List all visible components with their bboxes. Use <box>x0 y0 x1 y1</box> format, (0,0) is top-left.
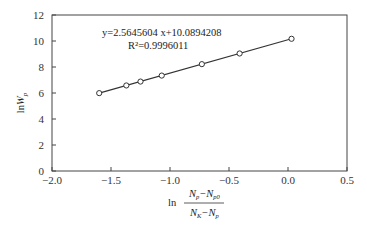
svg-text:ln: ln <box>168 197 177 208</box>
y-tick-label: 4 <box>39 113 45 125</box>
y-tick-label: 12 <box>33 9 44 21</box>
data-point-marker <box>138 79 143 84</box>
r-squared: R²=0.9996011 <box>128 40 188 51</box>
svg-text:NK−Np: NK−Np <box>189 207 219 219</box>
fit-equation: y=2.5645604 x+10.0894208 <box>102 27 221 38</box>
y-tick-label: 6 <box>39 87 45 99</box>
y-tick-label: 0 <box>39 165 45 177</box>
y-tick-label: 8 <box>39 61 45 73</box>
chart: −2.0−1.5−1.0−0.50.00.5024681012 y=2.5645… <box>0 0 367 230</box>
x-tick-label: 0.0 <box>281 174 295 186</box>
x-axis-label: ln Np−Np0 NK−Np <box>168 188 224 219</box>
y-axis-label: lnWp <box>15 92 29 113</box>
data-point-marker <box>159 73 164 78</box>
x-tick-label: −2.0 <box>42 174 62 186</box>
data-point-marker <box>199 62 204 67</box>
x-tick-label: −1.5 <box>101 174 121 186</box>
data-point-marker <box>237 51 242 56</box>
data-point-marker <box>124 83 129 88</box>
x-tick-label: −0.5 <box>219 174 239 186</box>
data-point-marker <box>97 91 102 96</box>
x-tick-label: 0.5 <box>340 174 354 186</box>
svg-text:lnWp: lnWp <box>15 92 29 113</box>
y-tick-label: 2 <box>39 139 45 151</box>
y-tick-label: 10 <box>33 35 45 47</box>
svg-text:Np−Np0: Np−Np0 <box>188 188 221 200</box>
data-series <box>97 36 295 96</box>
data-point-marker <box>289 36 294 41</box>
x-tick-label: −1.0 <box>160 174 180 186</box>
